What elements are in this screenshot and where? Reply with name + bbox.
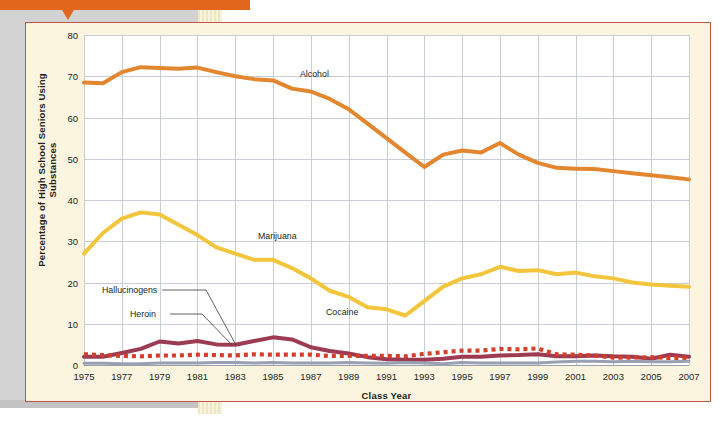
gridline-vertical [689, 35, 690, 365]
x-axis-tick-label: 1977 [111, 371, 132, 382]
chart-card: Percentage of High School Seniors Using … [25, 22, 711, 402]
y-axis-tick-label: 20 [67, 277, 78, 288]
x-axis-tick-label: 2001 [565, 371, 586, 382]
x-axis-tick-label: 1985 [262, 371, 283, 382]
x-axis-tick-label: 2005 [641, 371, 662, 382]
y-axis-tick-label: 50 [67, 153, 78, 164]
x-axis-tick-label: 1979 [149, 371, 170, 382]
y-axis-tick-label: 70 [67, 71, 78, 82]
x-axis-tick-label: 1989 [338, 371, 359, 382]
x-axis-title: Class Year [84, 390, 689, 401]
x-axis-tick-label: 1997 [489, 371, 510, 382]
gridline-horizontal [84, 365, 689, 366]
screenshot-root: steroids (1.5 percent). Percentage of Hi… [0, 0, 720, 431]
y-axis-tick-label: 10 [67, 318, 78, 329]
y-axis-tick-label: 30 [67, 236, 78, 247]
x-axis-tick-label: 2003 [603, 371, 624, 382]
x-axis-tick-label: 1975 [73, 371, 94, 382]
y-axis-tick-label: 80 [67, 30, 78, 41]
x-axis-tick-label: 1991 [376, 371, 397, 382]
callout-tail [55, 0, 81, 20]
x-axis-tick-label: 1995 [452, 371, 473, 382]
x-axis-tick-label: 1981 [187, 371, 208, 382]
callout-banner: steroids (1.5 percent). [0, 0, 250, 10]
x-axis-tick-label: 1999 [527, 371, 548, 382]
y-axis-tick-label: 40 [67, 195, 78, 206]
y-axis-tick-label: 0 [73, 360, 78, 371]
plot-area: Alcohol Marijuana Cocaine Hallucinogens … [84, 35, 689, 365]
y-axis-tick-label: 60 [67, 112, 78, 123]
leader-lines [84, 35, 689, 365]
x-axis-tick-label: 2007 [678, 371, 699, 382]
x-axis-tick-label: 1983 [225, 371, 246, 382]
x-axis-tick-label: 1993 [414, 371, 435, 382]
x-axis-tick-label: 1987 [300, 371, 321, 382]
y-axis-title: Percentage of High School Seniors Using … [36, 70, 58, 270]
